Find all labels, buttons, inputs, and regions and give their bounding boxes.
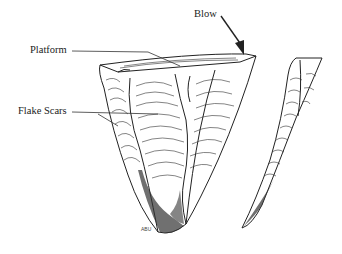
- core-and-flake-illustration: [0, 0, 342, 254]
- blow-arrow-icon: [221, 16, 244, 55]
- blow-label: Blow: [194, 8, 217, 19]
- platform-leader: [72, 51, 148, 52]
- flake: [242, 58, 322, 228]
- flake-scars-label: Flake Scars: [18, 105, 67, 116]
- artist-signature: ABU: [141, 226, 151, 232]
- platform-label: Platform: [30, 44, 67, 55]
- flake-scars-leader: [72, 112, 158, 114]
